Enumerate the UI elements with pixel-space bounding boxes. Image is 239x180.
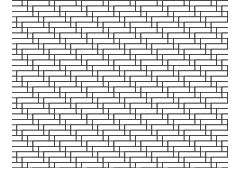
brick — [227, 119, 239, 124]
brick — [173, 146, 195, 151]
brick — [60, 60, 82, 65]
brick — [163, 82, 185, 87]
brick — [146, 92, 168, 97]
brick — [11, 65, 33, 70]
brick — [71, 44, 93, 49]
brick — [163, 136, 185, 141]
brick — [200, 65, 222, 70]
brick — [49, 22, 71, 27]
brick — [173, 38, 195, 43]
brick — [119, 119, 141, 124]
brick — [60, 168, 82, 173]
brick — [200, 146, 222, 151]
brick — [44, 71, 66, 76]
brick — [114, 114, 136, 119]
brick — [179, 98, 201, 103]
brick — [179, 17, 201, 22]
brick — [206, 98, 228, 103]
brick — [184, 49, 206, 54]
brick — [190, 55, 212, 60]
brick — [65, 38, 87, 43]
brick — [11, 146, 33, 151]
brick — [49, 130, 71, 135]
herringbone-pattern — [0, 0, 239, 180]
brick — [227, 65, 239, 70]
brick — [22, 157, 44, 162]
brick — [55, 28, 77, 33]
brick — [136, 55, 158, 60]
brick — [22, 103, 44, 108]
brick — [44, 152, 66, 157]
brick — [130, 49, 152, 54]
brick — [168, 60, 190, 65]
brick — [217, 163, 239, 168]
brick — [0, 125, 11, 130]
brick — [217, 28, 239, 33]
brick — [217, 136, 239, 141]
brick — [65, 119, 87, 124]
brick — [28, 163, 50, 168]
brick — [1, 82, 23, 87]
brick — [125, 98, 147, 103]
brick — [17, 152, 39, 157]
brick — [190, 1, 212, 6]
brick — [22, 49, 44, 54]
brick — [44, 125, 66, 130]
brick — [222, 141, 239, 146]
brick — [157, 76, 179, 81]
brick — [114, 33, 136, 38]
brick — [233, 60, 238, 82]
brick — [22, 76, 44, 81]
brick — [33, 6, 55, 11]
brick — [141, 33, 163, 38]
brick — [82, 109, 104, 114]
brick — [141, 60, 163, 65]
brick — [233, 152, 239, 157]
brick — [0, 22, 17, 27]
brick — [206, 168, 211, 180]
brick — [217, 1, 239, 6]
brick — [0, 103, 17, 108]
brick — [168, 168, 190, 173]
brick — [6, 0, 11, 17]
brick — [0, 157, 17, 162]
brick — [28, 136, 50, 141]
brick — [38, 146, 60, 151]
brick — [233, 168, 238, 180]
brick — [125, 168, 130, 180]
brick — [33, 114, 55, 119]
brick — [217, 55, 239, 60]
brick — [233, 17, 239, 22]
brick — [103, 157, 125, 162]
brick — [38, 119, 60, 124]
brick — [190, 163, 212, 168]
brick — [233, 141, 238, 163]
brick — [17, 71, 39, 76]
brick — [157, 103, 179, 108]
brick — [76, 103, 98, 108]
brick — [60, 33, 82, 38]
brick — [206, 125, 228, 130]
brick — [1, 163, 23, 168]
brick — [152, 168, 157, 180]
brick — [6, 130, 11, 152]
brick — [6, 87, 28, 92]
brick — [233, 125, 239, 130]
brick — [55, 163, 77, 168]
brick — [0, 44, 11, 49]
brick — [6, 6, 28, 11]
brick — [22, 130, 44, 135]
brick — [1, 28, 23, 33]
brick — [173, 65, 195, 70]
brick — [87, 114, 109, 119]
brick — [44, 17, 66, 22]
brick — [211, 22, 233, 27]
brick — [60, 141, 82, 146]
brick — [1, 1, 23, 6]
brick — [119, 38, 141, 43]
brick — [146, 65, 168, 70]
brick — [87, 33, 109, 38]
brick — [22, 22, 44, 27]
brick — [0, 98, 11, 103]
brick — [82, 136, 104, 141]
